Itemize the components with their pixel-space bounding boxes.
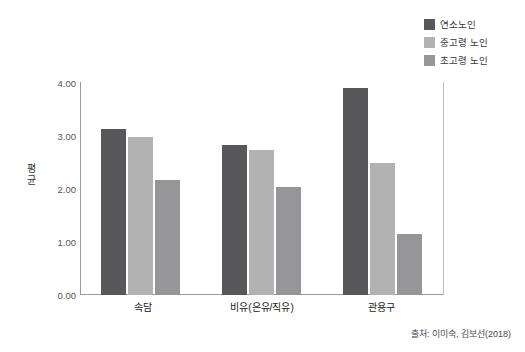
legend-item-2: 초고령 노인 (424, 54, 488, 66)
plot-area-right-edge (443, 82, 444, 295)
y-tick-label-1: 1.00 (42, 237, 76, 248)
y-tick-label-0: 0.00 (42, 290, 76, 301)
bars-layer (80, 82, 443, 295)
legend-item-1: 중고령 노인 (424, 36, 488, 48)
bar-2-0 (343, 88, 368, 295)
bar-2-2 (397, 234, 422, 295)
bar-1-1 (249, 150, 274, 295)
bar-2-1 (370, 163, 395, 295)
legend-label-0: 연소노인 (440, 19, 476, 30)
bar-1-2 (276, 187, 301, 295)
y-tick-label-4: 4.00 (42, 78, 76, 89)
source-note: 출처: 이미숙, 김보선(2018) (411, 327, 511, 340)
legend-swatch-icon-0 (424, 19, 435, 30)
y-tick-label-2: 2.00 (42, 184, 76, 195)
legend-item-0: 연소노인 (424, 18, 488, 30)
y-axis-tick-labels: 4.00 3.00 2.00 1.00 0.00 (40, 0, 76, 352)
bar-chart-figure: 연소노인 중고령 노인 초고령 노인 평균 4.00 3.00 2.00 1.0… (0, 0, 525, 352)
legend-label-2: 초고령 노인 (440, 55, 488, 66)
x-tick-label-2: 관용구 (368, 299, 395, 314)
y-tick-label-3: 3.00 (42, 131, 76, 142)
legend-swatch-icon-2 (424, 55, 435, 66)
x-axis-tick-labels: 속담 비유(은유/직유) 관용구 (80, 299, 443, 319)
x-tick-label-0: 속담 (134, 299, 152, 314)
bar-0-1 (128, 137, 153, 295)
legend-swatch-icon-1 (424, 37, 435, 48)
bar-0-0 (101, 129, 126, 295)
y-axis-title: 평균 (24, 163, 38, 187)
bar-0-2 (155, 180, 180, 295)
bar-1-0 (222, 145, 247, 295)
chart-legend: 연소노인 중고령 노인 초고령 노인 (424, 18, 488, 66)
legend-label-1: 중고령 노인 (440, 37, 488, 48)
x-tick-label-1: 비유(은유/직유) (230, 299, 293, 314)
